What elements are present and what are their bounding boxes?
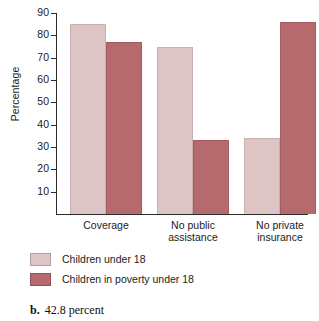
- bar: [280, 22, 316, 214]
- y-axis-line: [56, 13, 57, 215]
- y-axis-tick-label: 30: [37, 140, 49, 152]
- plot-area: 102030405060708090 CoverageNo public ass…: [56, 0, 308, 215]
- y-axis-tick-mark: [51, 169, 56, 170]
- bar: [157, 47, 193, 215]
- bar: [193, 140, 229, 214]
- y-axis-tick-label: 90: [37, 6, 49, 18]
- caption-text: 42.8 percent: [45, 303, 104, 317]
- y-axis-title: Percentage: [9, 54, 21, 134]
- y-axis-tick-label: 40: [37, 118, 49, 130]
- y-axis-tick-mark: [51, 102, 56, 103]
- legend-swatch-icon-light: [30, 253, 51, 266]
- legend-label: Children in poverty under 18: [62, 273, 194, 285]
- y-axis-tick-label: 60: [37, 73, 49, 85]
- legend-item-children-under-18: Children under 18: [30, 249, 194, 269]
- bar: [70, 24, 106, 214]
- y-axis-tick-label: 50: [37, 95, 49, 107]
- legend-item-children-in-poverty-under-18: Children in poverty under 18: [30, 269, 194, 289]
- y-axis-tick-mark: [51, 80, 56, 81]
- y-axis-tick-mark: [51, 125, 56, 126]
- x-axis-line: [56, 214, 308, 215]
- y-axis-tick-label: 10: [37, 185, 49, 197]
- bar: [106, 42, 142, 214]
- legend-label: Children under 18: [62, 253, 145, 265]
- y-axis-tick-mark: [51, 35, 56, 36]
- y-axis-tick-mark: [51, 13, 56, 14]
- legend-swatch-icon-dark: [30, 273, 51, 286]
- y-axis-tick-label: 20: [37, 162, 49, 174]
- y-axis-tick-mark: [51, 192, 56, 193]
- x-axis-category-label: No private insurance: [226, 219, 319, 243]
- y-axis-tick-mark: [51, 58, 56, 59]
- bar: [244, 138, 280, 214]
- y-axis-tick-mark: [51, 147, 56, 148]
- y-axis-tick-label: 80: [37, 28, 49, 40]
- chart-legend: Children under 18 Children in poverty un…: [30, 249, 194, 289]
- caption-marker: b.: [30, 303, 40, 317]
- figure-caption: b.42.8 percent: [30, 303, 104, 318]
- bar-chart-figure: Percentage 102030405060708090 CoverageNo…: [0, 0, 319, 240]
- y-axis-tick-label: 70: [37, 51, 49, 63]
